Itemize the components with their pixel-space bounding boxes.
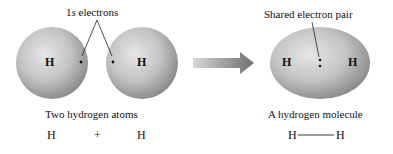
- callout-label-1s-electrons: 1s electrons: [66, 6, 118, 18]
- shared-electron-top: [319, 59, 322, 62]
- caption-two-hydrogen-atoms: Two hydrogen atoms: [45, 108, 138, 120]
- callout-lines-1s: [82, 20, 112, 56]
- shared-electron-bottom: [319, 65, 322, 68]
- molecule-left-symbol: H: [282, 55, 291, 70]
- equation-right-h: H: [137, 128, 146, 143]
- equation-plus: +: [94, 128, 101, 143]
- equation-left-h: H: [47, 128, 56, 143]
- caption-hydrogen-molecule: A hydrogen molecule: [268, 108, 363, 120]
- formula-right-h: H: [336, 128, 345, 143]
- electron-dot-left: [80, 61, 83, 64]
- diagram-graphics: [0, 0, 393, 154]
- atom-right-symbol: H: [137, 55, 146, 70]
- atom-left-symbol: H: [45, 55, 54, 70]
- formula-left-h: H: [288, 128, 297, 143]
- electron-dot-right: [112, 61, 115, 64]
- reaction-arrow-icon: [193, 52, 254, 74]
- callout-label-shared-pair: Shared electron pair: [264, 8, 353, 20]
- molecule-right-symbol: H: [348, 55, 357, 70]
